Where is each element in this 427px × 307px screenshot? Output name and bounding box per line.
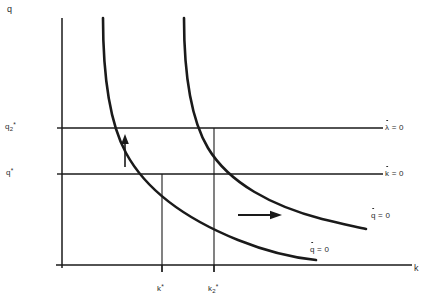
locus-label-k-dot-zero: k = 0 xyxy=(385,170,404,178)
right-arrow-head xyxy=(270,211,282,219)
ytick-label-q-star: q* xyxy=(6,168,13,177)
up-arrow-head xyxy=(121,134,129,144)
droplines-group xyxy=(162,128,214,272)
locus-label-q-dot-zero-inner: q = 0 xyxy=(310,246,329,254)
dot-accent-icon xyxy=(312,242,314,244)
dot-accent-icon xyxy=(386,120,388,122)
locus-label-q-dot-zero-outer: q = 0 xyxy=(371,212,390,220)
dot-accent-icon xyxy=(386,166,388,168)
up-arrow xyxy=(121,134,129,167)
locus-label-lambda-dot-zero: λ = 0 xyxy=(385,124,404,132)
axis-group xyxy=(56,18,412,268)
xtick-label-k-star: k* xyxy=(157,284,164,293)
xtick-label-k2-star: k2* xyxy=(208,284,218,294)
ytick-label-q2-star: q2* xyxy=(5,122,16,132)
y-axis-label: q xyxy=(7,5,12,14)
right-arrow xyxy=(238,211,282,219)
q-dot-zero-outer-curve xyxy=(184,18,366,229)
x-axis-label: k xyxy=(414,264,419,273)
q-dot-zero-inner-curve xyxy=(103,18,316,260)
tick-marks-group xyxy=(57,128,214,272)
dot-accent-icon xyxy=(373,208,375,210)
phase-diagram-canvas xyxy=(0,0,427,307)
